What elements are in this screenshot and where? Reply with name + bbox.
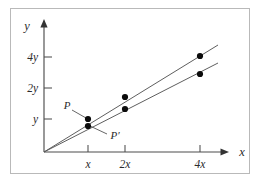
- y-tick-label-1: y: [32, 113, 39, 126]
- x-tick-label-2: 2x: [120, 158, 132, 170]
- x-axis-label: x: [238, 145, 245, 159]
- leader-line-p-prime: [90, 126, 107, 134]
- leader-line-p: [72, 110, 86, 118]
- y-axis-arrowhead: [40, 19, 47, 28]
- data-point: [122, 106, 128, 112]
- y-tick-label-2: 2y: [27, 82, 39, 95]
- y-axis-label: y: [22, 19, 30, 33]
- x-tick-label-4: 4x: [195, 158, 207, 170]
- x-axis-arrowhead: [221, 148, 230, 155]
- data-point: [122, 94, 128, 100]
- x-tick-label-1: x: [84, 158, 91, 170]
- data-point: [197, 71, 203, 77]
- y-tick-label-4: 4y: [27, 51, 39, 64]
- point-label-p-prime: P′: [109, 129, 120, 141]
- data-point: [85, 123, 91, 129]
- coordinate-plot: y x y 2y 4y x 2x 4x P P′: [0, 0, 259, 185]
- figure-root: y x y 2y 4y x 2x 4x P P′: [0, 0, 259, 185]
- data-point: [197, 53, 203, 59]
- point-label-p: P: [63, 99, 71, 111]
- data-point: [85, 116, 91, 122]
